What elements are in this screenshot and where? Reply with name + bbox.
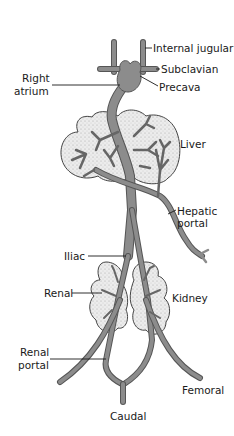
label-subclavian: Subclavian — [161, 63, 218, 75]
label-renal-portal-line2: portal — [18, 359, 49, 371]
label-renal: Renal — [44, 287, 73, 299]
label-hepatic-portal-line2: portal — [177, 217, 208, 229]
label-right-atrium-line1: Right — [22, 72, 50, 84]
label-renal-portal-line1: Renal — [20, 346, 49, 358]
label-liver: Liver — [180, 138, 206, 150]
label-femoral: Femoral — [182, 384, 224, 396]
right-atrium — [117, 61, 141, 92]
labels: Internal jugular Subclavian Precava Righ… — [14, 42, 234, 422]
label-caudal: Caudal — [110, 410, 146, 422]
venous-system-diagram: Internal jugular Subclavian Precava Righ… — [0, 0, 234, 436]
label-kidney: Kidney — [172, 292, 208, 304]
label-internal-jugular: Internal jugular — [153, 42, 234, 54]
label-right-atrium-line2: atrium — [14, 85, 49, 97]
label-precava: Precava — [159, 81, 201, 93]
label-hepatic-portal-line1: Hepatic — [177, 205, 217, 217]
label-iliac: Iliac — [64, 250, 85, 262]
